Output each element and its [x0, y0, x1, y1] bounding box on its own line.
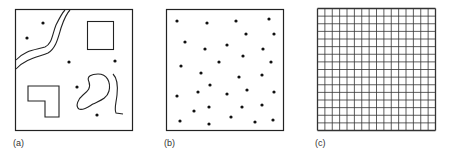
random-point [225, 92, 228, 95]
panel-b-frame [167, 10, 284, 131]
panel-b-points [175, 17, 275, 125]
point-feature [113, 59, 116, 62]
random-point [241, 54, 244, 57]
panel-a-frame [16, 10, 133, 131]
panel-a-label: (a) [13, 138, 24, 148]
random-point [269, 60, 272, 63]
random-point [267, 17, 270, 20]
random-point [178, 119, 181, 122]
panel-c-grid [318, 9, 436, 131]
random-point [205, 21, 208, 24]
random-point [217, 60, 220, 63]
point-feature [75, 85, 78, 88]
point-feature [41, 21, 44, 24]
panel-c-label: (c) [315, 138, 326, 148]
random-point [229, 115, 232, 118]
random-point [183, 40, 186, 43]
random-point [175, 19, 178, 22]
random-point [260, 73, 263, 76]
random-point [192, 109, 195, 112]
random-point [271, 118, 274, 121]
random-point [234, 19, 237, 22]
random-point [244, 32, 247, 35]
panel-c [318, 9, 436, 131]
random-point [175, 94, 178, 97]
river-bank-right [16, 10, 70, 69]
lake [77, 74, 109, 110]
random-point [261, 47, 264, 50]
random-point [253, 120, 256, 123]
panel-a-points [25, 21, 116, 116]
random-point [207, 122, 210, 125]
panel-b-label: (b) [164, 138, 175, 148]
random-point [207, 105, 210, 108]
random-point [237, 75, 240, 78]
l-shaped-building [28, 86, 59, 117]
random-point [196, 90, 199, 93]
random-point [272, 90, 275, 93]
random-point [179, 64, 182, 67]
random-point [225, 43, 228, 46]
random-point [240, 105, 243, 108]
random-point [208, 83, 211, 86]
random-point [260, 103, 263, 106]
panel-a [16, 10, 133, 131]
random-point [203, 47, 206, 50]
figure: (a) (b) (c) [0, 0, 449, 157]
river-bank-left [16, 10, 65, 60]
road [113, 74, 123, 114]
square-building [88, 22, 114, 50]
point-feature [95, 113, 98, 116]
point-feature [25, 36, 28, 39]
point-feature [67, 60, 70, 63]
random-point [272, 32, 275, 35]
random-point [199, 71, 202, 74]
random-point [245, 88, 248, 91]
panel-b [167, 10, 284, 131]
